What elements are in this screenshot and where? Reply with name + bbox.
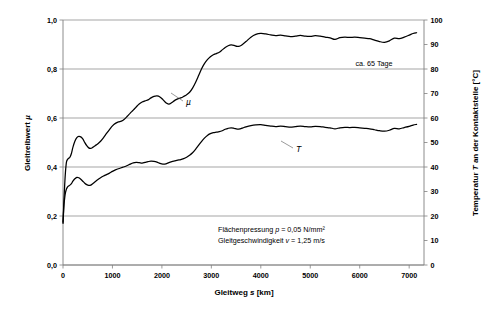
y-axis-title-symbol: µ [23, 115, 32, 121]
annotation-pressure-value: = 0,05 N/mm² [279, 225, 325, 234]
chart-background [0, 0, 493, 316]
annotation-pressure: Flächenpressung p = 0,05 N/mm² [218, 225, 325, 234]
y-axis-title: Gleitreibwert µ [23, 115, 32, 171]
y2-tick-label: 40 [431, 163, 439, 172]
y-axis-title-prefix: Gleitreibwert [23, 120, 32, 171]
x-axis-title: Gleitweg s [km] [214, 288, 273, 297]
y2-tick-label: 90 [431, 40, 439, 49]
annotation-velocity: Gleitgeschwindigkeit v = 1,25 m/s [218, 236, 325, 245]
chart-canvas: 0,00,20,40,60,81,00102030405060708090100… [0, 0, 493, 316]
x-axis-title-prefix: Gleitweg [214, 288, 250, 297]
x-tick-label: 6000 [352, 271, 368, 280]
x-tick-label: 4000 [253, 271, 269, 280]
series-label-t: T [296, 144, 302, 154]
y2-tick-label: 80 [431, 65, 439, 74]
y-tick-label: 0,8 [47, 65, 57, 74]
y2-tick-label: 70 [431, 89, 439, 98]
y2-tick-label: 20 [431, 212, 439, 221]
x-tick-label: 2000 [154, 271, 170, 280]
chart-container: 0,00,20,40,60,81,00102030405060708090100… [0, 0, 493, 316]
y2-axis-title: Temperatur T an der Kontaktstelle [°C] [471, 70, 480, 216]
annotation-days-note: ca. 65 Tage [355, 59, 392, 68]
y-tick-label: 1,0 [47, 16, 57, 25]
y-tick-label: 0,0 [47, 261, 57, 270]
x-tick-label: 5000 [302, 271, 318, 280]
y-tick-label: 0,6 [47, 114, 57, 123]
x-tick-label: 0 [61, 271, 65, 280]
y2-tick-label: 0 [431, 261, 435, 270]
y2-tick-label: 50 [431, 138, 439, 147]
y-tick-label: 0,2 [47, 212, 57, 221]
y2-axis-title-suffix: an der Kontaktstelle [°C] [471, 70, 480, 166]
y2-axis-title-prefix: Temperatur [471, 170, 480, 216]
x-tick-label: 1000 [104, 271, 120, 280]
x-axis-title-suffix: [km] [254, 288, 273, 297]
x-tick-label: 3000 [203, 271, 219, 280]
y-tick-label: 0,4 [47, 163, 57, 172]
annotation-velocity-value: = 1,25 m/s [289, 236, 325, 245]
y2-tick-label: 10 [431, 236, 439, 245]
y2-tick-label: 100 [431, 16, 443, 25]
y2-tick-label: 60 [431, 114, 439, 123]
x-tick-label: 7000 [401, 271, 417, 280]
series-label-mu: µ [186, 97, 191, 107]
y2-tick-label: 30 [431, 187, 439, 196]
annotation-pressure-prefix: Flächenpressung [218, 225, 275, 234]
annotation-velocity-prefix: Gleitgeschwindigkeit [218, 236, 286, 245]
